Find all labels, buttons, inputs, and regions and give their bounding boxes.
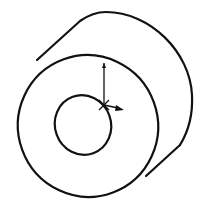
inner-hole-ellipse [46, 87, 119, 163]
axis-vertical-arrowhead [102, 63, 106, 68]
axis-horizontal-arrowhead [115, 105, 124, 111]
front-face-outer-ellipse [0, 35, 178, 206]
bottom-tangent-edge [146, 145, 180, 176]
coordinate-axis-triad [99, 63, 124, 111]
back-face-edge [37, 12, 192, 145]
cad-drawing [0, 0, 204, 206]
